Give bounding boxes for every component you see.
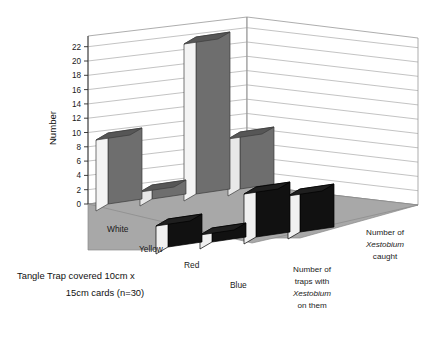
chart-caption: Tangle Trap covered 10cm x 15cm cards (n… [17,270,144,298]
y-axis-title: Number [47,110,58,145]
y-tick-14: 14 [72,100,82,109]
cat-label-blue: Blue [230,280,247,290]
caption-line-2: 15cm cards (n=30) [66,287,144,298]
series-caught-line1: Number of [366,228,405,237]
series-traps-line1: Number of [293,265,332,274]
y-axis-ticks [84,47,88,204]
series-traps-line2: traps with [295,277,330,286]
y-tick-8: 8 [76,143,81,152]
y-tick-16: 16 [72,86,82,95]
series-caught-line3: caught [373,252,398,261]
y-axis-tick-labels: 0 2 4 6 8 10 12 14 16 18 20 22 [72,43,82,209]
series-label-caught: Number of Xestobium caught [365,228,405,261]
cat-label-white: White [107,224,129,234]
y-tick-4: 4 [76,171,81,180]
bar-chart-3d: 0 2 4 6 8 10 12 14 16 18 20 22 Number [0,0,433,337]
series-label-traps: Number of traps with Xestobium on them [292,265,332,310]
cat-label-red: Red [184,260,200,270]
y-tick-0: 0 [76,200,81,209]
cat-label-yellow: Yellow [139,244,164,254]
series-caught-line2: Xestobium [365,240,404,249]
bar-back-white[interactable] [96,128,142,211]
figure-container: 0 2 4 6 8 10 12 14 16 18 20 22 Number [0,0,433,337]
series-traps-line3: Xestobium [292,289,331,298]
y-tick-10: 10 [72,129,82,138]
y-tick-6: 6 [76,157,81,166]
y-tick-12: 12 [72,114,82,123]
y-tick-18: 18 [72,71,82,80]
caption-line-1: Tangle Trap covered 10cm x [17,270,135,281]
y-tick-2: 2 [76,186,81,195]
series-traps-line4: on them [297,301,327,310]
y-tick-22: 22 [72,43,82,52]
y-tick-20: 20 [72,57,82,66]
bar-back-red[interactable] [184,32,230,201]
